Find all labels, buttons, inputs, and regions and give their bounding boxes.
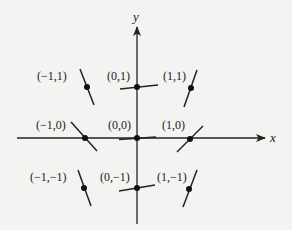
point-label: (0,1)	[107, 69, 130, 83]
point-1-1: (1,1)	[163, 69, 197, 107]
point-dot	[188, 85, 194, 91]
point-dot	[134, 84, 140, 90]
axes: x y	[17, 9, 276, 224]
slope-field-diagram: x y (−1,1) (0,1) (1,1) (−1,0) (0,0) (1,0…	[0, 0, 292, 230]
point-dot	[187, 136, 193, 142]
point-label: (−1,0)	[36, 118, 66, 132]
x-axis-label: x	[269, 130, 276, 145]
point-dot	[134, 185, 140, 191]
point-label: (1,0)	[162, 118, 185, 132]
point-label: (1,−1)	[157, 170, 187, 184]
point-0-neg1: (0,−1)	[100, 170, 155, 191]
point-dot	[134, 135, 140, 141]
point-dot	[186, 186, 192, 192]
point-label: (−1,1)	[37, 69, 67, 83]
point-label: (0,−1)	[100, 170, 130, 184]
point-dot	[82, 135, 88, 141]
point-0-1: (0,1)	[107, 69, 158, 90]
point-neg1-1: (−1,1)	[37, 69, 94, 105]
point-neg1-0: (−1,0)	[36, 118, 97, 151]
point-dot	[81, 185, 87, 191]
point-neg1-neg1: (−1,−1)	[30, 170, 91, 206]
point-dot	[84, 84, 90, 90]
point-label: (0,0)	[108, 118, 131, 132]
point-1-0: (1,0)	[162, 118, 203, 152]
point-1-neg1: (1,−1)	[157, 170, 197, 207]
point-label: (1,1)	[163, 69, 186, 83]
y-axis-label: y	[131, 9, 139, 24]
point-label: (−1,−1)	[30, 170, 67, 184]
